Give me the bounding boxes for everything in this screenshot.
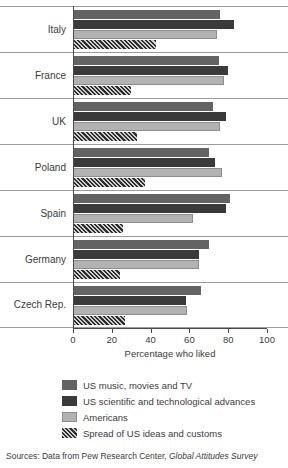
x-tick — [267, 329, 268, 333]
legend-swatch-icon — [62, 396, 77, 406]
bar-row — [73, 102, 288, 111]
plot-area: ItalyFranceUKPolandSpainGermanyCzech Rep… — [0, 0, 288, 340]
legend-label: Americans — [83, 412, 128, 423]
bar — [73, 10, 220, 19]
bar — [73, 224, 123, 233]
bar-row — [73, 148, 288, 157]
bar-row — [73, 66, 288, 75]
x-axis-line — [73, 328, 267, 329]
bar-set — [73, 102, 288, 142]
bar-row — [73, 132, 288, 141]
bar — [73, 214, 193, 223]
bar — [73, 132, 137, 141]
bar-set — [73, 194, 288, 234]
bar — [73, 168, 222, 177]
bar — [73, 270, 120, 279]
bar-row — [73, 286, 288, 295]
bar-row — [73, 20, 288, 29]
bar-set — [73, 56, 288, 96]
bar-set — [73, 148, 288, 188]
bar — [73, 86, 131, 95]
legend-item: Spread of US ideas and customs — [62, 425, 288, 441]
category-label: Spain — [0, 208, 66, 220]
legend: US music, movies and TVUS scientific and… — [62, 377, 288, 441]
bar-group: Poland — [0, 144, 288, 190]
bar-row — [73, 122, 288, 131]
bar — [73, 30, 217, 39]
bar-row — [73, 270, 288, 279]
bar-row — [73, 178, 288, 187]
bar — [73, 122, 220, 131]
bar-group: France — [0, 52, 288, 98]
bar — [73, 20, 234, 29]
bar — [73, 316, 125, 325]
bar-row — [73, 112, 288, 121]
x-tick-label: 80 — [223, 334, 234, 345]
legend-swatch-icon — [62, 412, 77, 422]
y-axis-line — [73, 6, 74, 328]
x-tick — [228, 329, 229, 333]
bar-set — [73, 240, 288, 280]
category-label: France — [0, 70, 66, 82]
bar-row — [73, 30, 288, 39]
bar-group: Germany — [0, 236, 288, 282]
bar — [73, 286, 201, 295]
x-tick — [73, 329, 74, 333]
legend-label: US music, movies and TV — [83, 380, 192, 391]
bar-row — [73, 204, 288, 213]
bar-row — [73, 76, 288, 85]
bar-set — [73, 286, 288, 326]
x-tick-label: 40 — [145, 334, 156, 345]
bar-row — [73, 40, 288, 49]
x-tick-label: 20 — [107, 334, 118, 345]
bar-row — [73, 306, 288, 315]
bar-group: Italy — [0, 6, 288, 52]
bar-row — [73, 296, 288, 305]
source-prefix: Sources: Data from Pew Research Center, — [6, 451, 167, 461]
bar-group: Spain — [0, 190, 288, 236]
bar-row — [73, 240, 288, 249]
legend-item: US scientific and technological advances — [62, 393, 288, 409]
bar — [73, 240, 209, 249]
bar — [73, 66, 228, 75]
bar-row — [73, 168, 288, 177]
x-tick — [112, 329, 113, 333]
legend-item: US music, movies and TV — [62, 377, 288, 393]
category-label: Czech Rep. — [0, 299, 66, 311]
bar — [73, 102, 213, 111]
bar-row — [73, 86, 288, 95]
category-label: Germany — [0, 254, 66, 266]
x-tick — [189, 329, 190, 333]
bar-chart-figure: ItalyFranceUKPolandSpainGermanyCzech Rep… — [0, 0, 288, 468]
bar — [73, 306, 187, 315]
legend-item: Americans — [62, 409, 288, 425]
bar-row — [73, 194, 288, 203]
bar-groups: ItalyFranceUKPolandSpainGermanyCzech Rep… — [0, 6, 288, 328]
bar-set — [73, 10, 288, 50]
x-tick-label: 100 — [259, 334, 275, 345]
legend-label: Spread of US ideas and customs — [83, 428, 222, 439]
legend-swatch-icon — [62, 380, 77, 390]
category-label: Poland — [0, 162, 66, 174]
bar — [73, 194, 230, 203]
source-note: Sources: Data from Pew Research Center, … — [6, 451, 258, 461]
bar-group: Czech Rep. — [0, 282, 288, 328]
bar — [73, 158, 215, 167]
bar — [73, 204, 226, 213]
bar — [73, 296, 186, 305]
bar-row — [73, 214, 288, 223]
x-axis-title: Percentage who liked — [73, 348, 267, 359]
bar — [73, 40, 156, 49]
bar — [73, 56, 219, 65]
bar — [73, 260, 199, 269]
bar — [73, 76, 224, 85]
bar-row — [73, 10, 288, 19]
bar-row — [73, 316, 288, 325]
legend-label: US scientific and technological advances — [83, 396, 255, 407]
x-tick — [151, 329, 152, 333]
bar — [73, 112, 226, 121]
bar — [73, 250, 199, 259]
bar-row — [73, 224, 288, 233]
bar-row — [73, 158, 288, 167]
bar-row — [73, 260, 288, 269]
